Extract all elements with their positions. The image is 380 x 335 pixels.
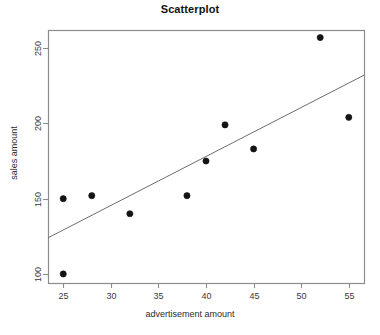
- x-tick-label: 40: [201, 291, 211, 301]
- data-point: [60, 271, 66, 277]
- data-points: [60, 34, 352, 277]
- x-axis-label: advertisement amount: [0, 309, 380, 319]
- x-tick-label: 45: [249, 291, 259, 301]
- x-tick-label: 25: [58, 291, 68, 301]
- data-point: [346, 114, 352, 120]
- scatterplot-figure: Scatterplot 25303540455055 100150200250 …: [0, 0, 380, 335]
- data-point: [89, 193, 95, 199]
- plot-box-border: [49, 31, 365, 284]
- data-point: [203, 158, 209, 164]
- data-point: [184, 193, 190, 199]
- regression-line: [48, 75, 364, 238]
- data-point: [60, 196, 66, 202]
- x-tick-label: 30: [106, 291, 116, 301]
- y-tick-label: 250: [33, 41, 43, 56]
- y-axis-label: sales amount: [9, 103, 19, 203]
- x-axis-ticks: 25303540455055: [58, 283, 354, 301]
- y-tick-label: 200: [33, 116, 43, 131]
- y-tick-label: 150: [33, 192, 43, 207]
- x-tick-label: 35: [153, 291, 163, 301]
- y-axis-ticks: 100150200250: [33, 41, 48, 282]
- plot-area: 25303540455055 100150200250: [0, 0, 380, 335]
- trend-line-segment: [48, 75, 364, 238]
- data-point: [222, 122, 228, 128]
- data-point: [317, 34, 323, 40]
- y-tick-label: 100: [33, 267, 43, 282]
- x-tick-label: 55: [344, 291, 354, 301]
- plot-frame: [49, 31, 365, 284]
- x-tick-label: 50: [296, 291, 306, 301]
- data-point: [250, 146, 256, 152]
- data-point: [127, 211, 133, 217]
